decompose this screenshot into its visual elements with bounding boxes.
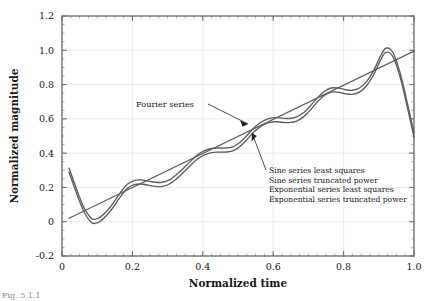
y-tick-label: -0.2 — [36, 250, 54, 261]
x-tick-labels: 00.20.40.60.81.0 — [59, 261, 422, 272]
chart-svg: 00.20.40.60.81.0 -0.200.20.40.60.81.01.2… — [0, 0, 434, 301]
fourier-series-label: Fourier series — [136, 99, 194, 109]
legend-entry: Sine series truncated power — [269, 176, 378, 185]
x-tick-label: 1.0 — [406, 261, 421, 272]
y-tick-label: 0.6 — [39, 113, 54, 124]
figure-container: 00.20.40.60.81.0 -0.200.20.40.60.81.01.2… — [0, 0, 434, 301]
y-tick-label: 0.4 — [39, 148, 54, 159]
x-tick-label: 0.6 — [266, 261, 281, 272]
y-tick-label: 0.8 — [39, 79, 54, 90]
y-tick-labels: -0.200.20.40.60.81.01.2 — [36, 10, 54, 261]
y-tick-label: 0.2 — [39, 182, 54, 193]
x-tick-label: 0.2 — [125, 261, 140, 272]
legend-entry: Exponential series truncated power — [269, 195, 407, 204]
y-tick-label: 1.0 — [39, 45, 54, 56]
annotation-legend-leader — [252, 133, 266, 170]
fourier-series-leader-line — [208, 104, 248, 124]
legend-arrowhead — [252, 133, 257, 142]
y-axis-label: Normalized magnitude — [8, 68, 20, 203]
legend-text-block: Sine series least squaresSine series tru… — [269, 166, 407, 204]
y-tick-label: 1.2 — [39, 10, 54, 21]
x-tick-label: 0.8 — [336, 261, 351, 272]
annotation-fourier-series: Fourier series — [136, 99, 248, 127]
legend-entry: Sine series least squares — [269, 166, 365, 175]
x-axis-label: Normalized time — [189, 277, 288, 289]
x-tick-label: 0 — [59, 261, 65, 272]
figure-caption: Fig. 5.1.1 — [2, 291, 41, 300]
fourier-series-arrowhead — [240, 121, 248, 127]
y-tick-label: 0 — [48, 216, 54, 227]
x-tick-label: 0.4 — [195, 261, 210, 272]
legend-entry: Exponential series least squares — [269, 185, 394, 194]
